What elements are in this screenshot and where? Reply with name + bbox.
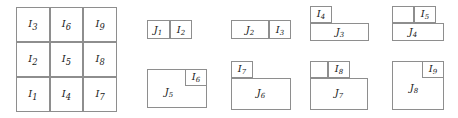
grid-cell-label: I2: [28, 53, 37, 67]
grid-cell-i8: I8: [83, 42, 117, 77]
j7-label: J7: [335, 88, 343, 98]
grid-cell-label: I4: [62, 88, 71, 102]
grid-cell-i9: I9: [83, 7, 117, 42]
j3-label: J3: [336, 27, 344, 37]
grid-cell-i5: I5: [50, 42, 84, 77]
grid-cell-i3: I3: [16, 7, 50, 42]
j5-label: J5: [165, 87, 173, 97]
j7-upper-left: [310, 61, 328, 78]
grid-cell-i4: I4: [50, 77, 84, 112]
grid-cell-i1: I1: [16, 77, 50, 112]
grid-cell-label: I7: [96, 88, 105, 102]
i5-label: I5: [421, 9, 429, 19]
j4-upper-left: [392, 6, 414, 23]
grid-cell-i6: I6: [50, 7, 84, 42]
interval-decomposition-figure: I3I6I9I2I5I8I1I4I7 J1I2J2I3I4J3I5J4J5I6I…: [0, 0, 458, 118]
j4-label: J4: [409, 27, 417, 37]
grid-cell-label: I5: [62, 53, 71, 67]
grid-cell-label: I9: [96, 18, 105, 32]
i6-label: I6: [192, 72, 200, 82]
grid-cell-i2: I2: [16, 42, 50, 77]
i4-label: I4: [317, 9, 325, 19]
grid-cell-i7: I7: [83, 77, 117, 112]
i9-label: I9: [429, 64, 437, 74]
j6-label: J6: [257, 88, 265, 98]
grid-cell-label: I1: [28, 88, 37, 102]
i7-label: I7: [238, 64, 246, 74]
j8-label: J8: [410, 83, 418, 93]
i2-label: I2: [177, 25, 185, 35]
i3-label: I3: [276, 25, 284, 35]
grid-cell-label: I3: [28, 18, 37, 32]
grid-cell-label: I6: [62, 18, 71, 32]
i8-label: I8: [335, 64, 343, 74]
j1-label: J1: [154, 25, 162, 35]
j4-box: [392, 23, 444, 41]
grid-cell-label: I8: [96, 53, 105, 67]
j2-label: J2: [246, 25, 254, 35]
